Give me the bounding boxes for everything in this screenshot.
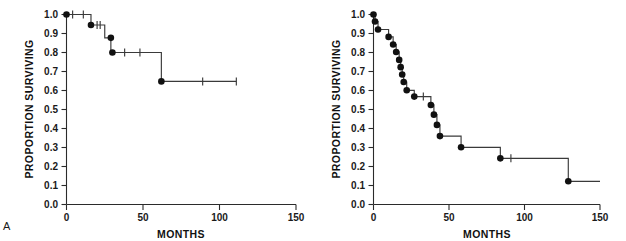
- y-tick-label: 0.2: [351, 161, 365, 172]
- km-event-marker: [158, 78, 165, 85]
- x-tick-label: 0: [64, 212, 70, 223]
- y-tick-label: 0.4: [351, 123, 365, 134]
- y-axis-title-b: PROPORTION SURVIVING: [330, 39, 342, 178]
- x-axis-title-b: MONTHS: [463, 228, 511, 240]
- km-event-marker: [399, 71, 406, 78]
- y-axis-tick-labels-a: 0.0 0.1 0.2 0.3 0.4 0.5 0.6 0.7 0.8 0.9 …: [44, 9, 58, 210]
- panel-letter-a: A: [3, 220, 11, 232]
- km-event-marker: [397, 64, 404, 71]
- y-tick-label: 0.8: [44, 47, 58, 58]
- y-tick-label: 0.9: [44, 28, 58, 39]
- km-event-marker: [385, 34, 392, 41]
- panel-b-plot: 0.0 0.1 0.2 0.3 0.4 0.5 0.6 0.7 0.8 0.9 …: [313, 0, 626, 241]
- y-axis-ticks-a: [62, 15, 67, 205]
- y-tick-label: 0.7: [44, 66, 58, 77]
- x-tick-label: 150: [288, 212, 305, 223]
- km-event-marker: [390, 41, 397, 48]
- y-tick-label: 0.2: [44, 161, 58, 172]
- y-tick-label: 0.5: [351, 104, 365, 115]
- x-axis-ticks-b: [374, 205, 601, 211]
- x-tick-label: 150: [592, 212, 609, 223]
- y-tick-label: 1.0: [44, 9, 58, 20]
- y-axis-ticks-b: [369, 15, 374, 205]
- y-tick-label: 0.3: [44, 142, 58, 153]
- km-step-line: [374, 15, 601, 182]
- y-tick-label: 0.0: [44, 199, 58, 210]
- x-tick-label: 50: [443, 212, 455, 223]
- x-tick-label: 100: [211, 212, 228, 223]
- km-event-marker: [372, 18, 379, 25]
- y-tick-label: 0.4: [44, 123, 58, 134]
- km-event-marker: [565, 178, 572, 185]
- km-event-marker: [437, 133, 444, 140]
- km-event-marker: [63, 11, 70, 18]
- y-tick-label: 0.3: [351, 142, 365, 153]
- y-tick-label: 0.5: [44, 104, 58, 115]
- panel-a: 0.0 0.1 0.2 0.3 0.4 0.5 0.6 0.7 0.8 0.9 …: [0, 0, 313, 241]
- km-event-marker: [431, 111, 438, 118]
- y-tick-label: 1.0: [351, 9, 365, 20]
- x-tick-label: 100: [516, 212, 533, 223]
- y-tick-label: 0.8: [351, 47, 365, 58]
- km-event-marker: [393, 49, 400, 56]
- km-event-marker: [370, 11, 377, 18]
- panel-a-plot: 0.0 0.1 0.2 0.3 0.4 0.5 0.6 0.7 0.8 0.9 …: [0, 0, 313, 241]
- km-event-marker: [497, 155, 504, 162]
- y-axis-tick-labels-b: 0.0 0.1 0.2 0.3 0.4 0.5 0.6 0.7 0.8 0.9 …: [351, 9, 365, 210]
- km-event-marker: [458, 144, 465, 151]
- y-axis-title-a: PROPORTION SURVIVING: [23, 39, 35, 178]
- km-curve-a: [63, 11, 236, 86]
- y-tick-label: 0.1: [44, 180, 58, 191]
- km-event-marker: [403, 87, 410, 94]
- y-tick-label: 0.9: [351, 28, 365, 39]
- km-event-marker: [400, 79, 407, 86]
- km-event-marker: [428, 102, 435, 109]
- x-axis-tick-labels-a: 0 50 100 150: [64, 212, 305, 223]
- kaplan-meier-figure: 0.0 0.1 0.2 0.3 0.4 0.5 0.6 0.7 0.8 0.9 …: [0, 0, 626, 241]
- km-event-marker: [375, 26, 382, 33]
- km-event-marker: [396, 57, 403, 64]
- x-axis-tick-labels-b: 0 50 100 150: [371, 212, 609, 223]
- y-tick-label: 0.6: [351, 85, 365, 96]
- y-tick-label: 0.7: [351, 66, 365, 77]
- km-event-marker: [434, 122, 441, 129]
- km-event-marker: [411, 93, 418, 100]
- km-event-marker: [109, 49, 116, 56]
- x-axis-title-a: MONTHS: [157, 228, 205, 240]
- km-event-marker: [88, 22, 95, 29]
- y-tick-label: 0.6: [44, 85, 58, 96]
- panel-b: 0.0 0.1 0.2 0.3 0.4 0.5 0.6 0.7 0.8 0.9 …: [313, 0, 626, 241]
- x-tick-label: 50: [137, 212, 149, 223]
- km-curve-b: [370, 11, 600, 184]
- x-tick-label: 0: [371, 212, 377, 223]
- y-tick-label: 0.0: [351, 199, 365, 210]
- km-event-marker: [108, 35, 115, 42]
- x-axis-ticks-a: [67, 205, 297, 211]
- y-tick-label: 0.1: [351, 180, 365, 191]
